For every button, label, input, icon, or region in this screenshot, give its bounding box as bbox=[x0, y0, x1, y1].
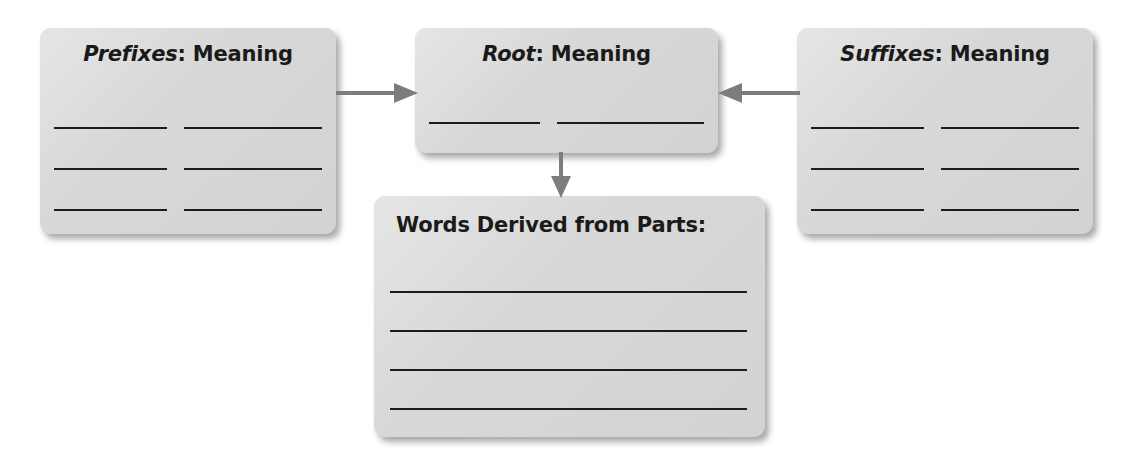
arrow-down-icon bbox=[548, 152, 574, 198]
card-prefixes-term: Prefixes bbox=[83, 42, 177, 66]
card-prefixes-title: Prefixes: Meaning bbox=[40, 42, 336, 66]
card-suffixes-title: Suffixes: Meaning bbox=[797, 42, 1093, 66]
blank-field[interactable] bbox=[184, 126, 322, 129]
blank-field[interactable] bbox=[390, 407, 747, 410]
card-suffixes-blanks bbox=[797, 126, 1093, 249]
card-suffixes-term: Suffixes bbox=[840, 42, 934, 66]
blank-field[interactable] bbox=[811, 167, 924, 170]
card-words-derived-title: Words Derived from Parts: bbox=[396, 213, 765, 237]
blank-field[interactable] bbox=[941, 208, 1079, 211]
card-prefixes-separator: : bbox=[178, 42, 186, 66]
blank-field[interactable] bbox=[54, 167, 167, 170]
card-suffixes[interactable]: Suffixes: Meaning bbox=[797, 28, 1093, 234]
blank-row bbox=[54, 126, 322, 129]
blank-field[interactable] bbox=[811, 126, 924, 129]
blank-field[interactable] bbox=[390, 290, 747, 293]
blank-row bbox=[390, 290, 749, 293]
blank-row bbox=[54, 208, 322, 211]
blank-row bbox=[390, 407, 749, 410]
blank-field[interactable] bbox=[811, 208, 924, 211]
blank-field[interactable] bbox=[557, 121, 704, 124]
card-root[interactable]: Root: Meaning bbox=[415, 28, 718, 153]
blank-field[interactable] bbox=[941, 126, 1079, 129]
card-suffixes-label: Meaning bbox=[943, 42, 1050, 66]
card-prefixes[interactable]: Prefixes: Meaning bbox=[40, 28, 336, 234]
blank-field[interactable] bbox=[184, 167, 322, 170]
card-words-derived[interactable]: Words Derived from Parts: bbox=[374, 196, 765, 437]
blank-field[interactable] bbox=[54, 126, 167, 129]
blank-row bbox=[429, 121, 704, 124]
arrow-left-icon bbox=[718, 80, 800, 106]
arrow-right-icon bbox=[336, 80, 420, 106]
blank-row bbox=[811, 167, 1079, 170]
card-root-term: Root bbox=[482, 42, 535, 66]
blank-row bbox=[54, 167, 322, 170]
card-prefixes-label: Meaning bbox=[186, 42, 293, 66]
blank-field[interactable] bbox=[390, 368, 747, 371]
blank-row bbox=[811, 126, 1079, 129]
card-root-label: Meaning bbox=[544, 42, 651, 66]
card-root-blanks bbox=[415, 121, 718, 124]
blank-field[interactable] bbox=[54, 208, 167, 211]
word-parts-diagram: Prefixes: Meaning Root: Meaning bbox=[0, 0, 1140, 459]
card-words-derived-blanks bbox=[374, 290, 765, 446]
card-root-title: Root: Meaning bbox=[415, 42, 718, 66]
card-prefixes-blanks bbox=[40, 126, 336, 249]
card-suffixes-separator: : bbox=[934, 42, 942, 66]
blank-field[interactable] bbox=[429, 121, 540, 124]
card-root-separator: : bbox=[535, 42, 543, 66]
blank-row bbox=[390, 329, 749, 332]
blank-row bbox=[390, 368, 749, 371]
blank-field[interactable] bbox=[390, 329, 747, 332]
blank-field[interactable] bbox=[941, 167, 1079, 170]
blank-field[interactable] bbox=[184, 208, 322, 211]
blank-row bbox=[811, 208, 1079, 211]
